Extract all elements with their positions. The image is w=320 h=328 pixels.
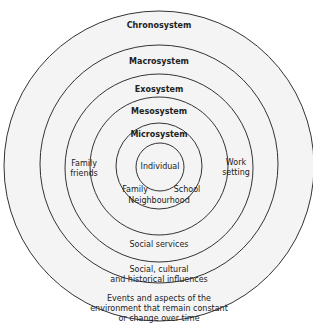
chronosystem-label: Chronosystem [127,21,192,31]
exosystem-label: Exosystem [135,85,183,95]
work-setting-line2: setting [222,168,250,178]
neighbourhood-label: Neighbourhood [128,196,189,206]
chrono-desc-line2: environment that remain constant [90,304,228,314]
macro-desc-line1: Social, cultural [129,265,188,275]
macro-desc-line2: and historical influences [110,275,208,285]
family-friends-line2: friends [70,169,98,179]
family-friends-line1: Family [71,159,97,169]
chrono-desc-line1: Events and aspects of the [107,294,211,304]
school-label: School [174,185,201,195]
social-services-label: Social services [129,240,188,250]
chrono-desc-line3: or change over time [118,314,199,324]
microsystem-label: Microsystem [130,130,187,140]
individual-label: Individual [141,162,180,172]
macrosystem-label: Macrosystem [129,57,189,67]
mesosystem-label: Mesosystem [131,107,187,117]
family-label: Family [122,185,148,195]
work-setting-line1: Work [226,158,246,168]
